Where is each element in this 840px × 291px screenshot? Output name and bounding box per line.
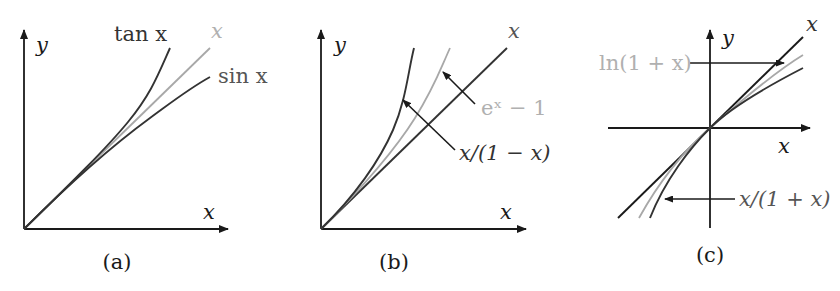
panel-b-curve-identity [321,48,507,229]
panel-a-label-tan: tan x [114,22,167,46]
panel-b: y x x eˣ − 1 x/(1 − x) (b) [321,19,550,274]
panel-b-label-exp: eˣ − 1 [481,96,547,120]
panel-c-label-log: ln(1 + x) [599,51,692,75]
figure-canvas: y x tan x x sin x (a) y x x eˣ − 1 x/(1 … [0,0,840,291]
panel-b-curve-exp [321,48,450,229]
panel-c: y x x ln(1 + x) x/(1 + x) (c) [599,12,830,267]
panel-b-x-label: x [500,200,512,224]
panel-c-label-identity: x [806,12,818,36]
panel-b-y-label: y [333,33,347,57]
panel-b-label-identity: x [508,19,520,43]
panel-b-label-rational: x/(1 − x) [459,141,550,165]
panel-a-curve-sin [24,77,210,229]
panel-a-label-sin: sin x [218,64,268,88]
panel-a-x-label: x [203,200,215,224]
panel-c-label-rational: x/(1 + x) [739,187,830,211]
panel-c-y-label: y [721,26,735,50]
panel-b-caption: (b) [379,250,409,274]
panel-b-arrow-exp [443,72,475,104]
panel-a: y x tan x x sin x (a) [24,19,268,274]
panel-c-x-label: x [778,134,790,158]
panel-a-caption: (a) [103,250,132,274]
panel-a-y-label: y [35,33,49,57]
panel-a-label-identity: x [211,19,223,43]
panel-a-curve-tan [24,48,170,229]
panel-c-caption: (c) [696,243,724,267]
